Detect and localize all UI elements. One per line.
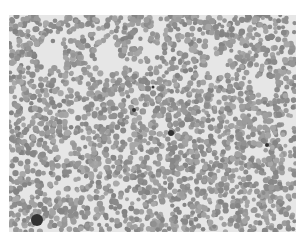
blood-smear-image — [9, 15, 296, 232]
dark-cell-spot — [132, 108, 136, 112]
dark-cell-spot — [31, 214, 43, 226]
dark-cell-spot — [265, 143, 269, 147]
dark-cell-spot — [168, 130, 174, 136]
cells-canvas — [9, 15, 296, 232]
dark-cell-spot — [152, 86, 155, 89]
